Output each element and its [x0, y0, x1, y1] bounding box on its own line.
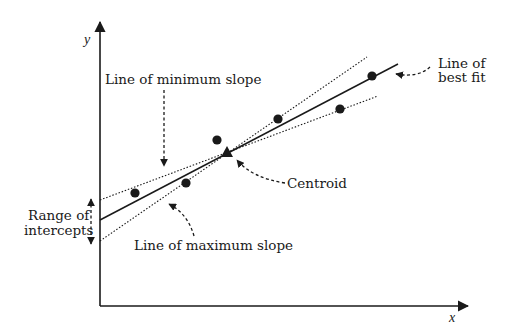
centroid-pointer-arrow: [237, 160, 285, 183]
x-axis-label: x: [448, 310, 456, 325]
max-slope-pointer-arrow: [169, 204, 194, 236]
axes: y x: [82, 22, 468, 325]
label-range-line1: Range of: [28, 207, 90, 223]
data-point: [212, 135, 221, 144]
label-max-slope: Line of maximum slope: [134, 237, 293, 253]
label-centroid: Centroid: [287, 175, 347, 191]
label-range-line2: intercepts: [24, 222, 93, 238]
label-min-slope: Line of minimum slope: [105, 71, 261, 87]
annotation-arrows: [91, 67, 430, 244]
data-point: [181, 178, 190, 187]
line-of-best-fit: [100, 64, 398, 220]
label-best-fit-line2: best fit: [438, 69, 486, 85]
best-fit-diagram: y x Line of minimum slope Line of maximu…: [0, 0, 506, 333]
data-point: [367, 71, 376, 80]
labels: Line of minimum slope Line of maximum sl…: [24, 55, 486, 253]
best-fit-pointer-arrow: [396, 67, 430, 75]
data-point: [273, 114, 282, 123]
y-axis-label: y: [82, 32, 91, 47]
data-point: [335, 104, 344, 113]
data-point: [130, 188, 139, 197]
